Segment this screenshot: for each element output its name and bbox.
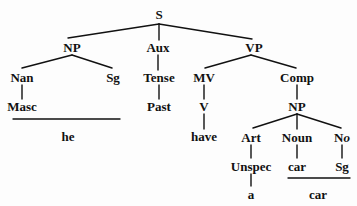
syntax-tree-diagram: S NP Aux VP Nan Sg Tense MV Comp Masc Pa… (0, 0, 357, 206)
node-masc: Masc (7, 100, 37, 113)
word-he: he (62, 130, 75, 143)
node-unspec: Unspec (231, 160, 271, 173)
node-mv: MV (193, 71, 215, 84)
node-tense: Tense (143, 71, 174, 84)
node-np-comp: NP (288, 100, 305, 113)
node-art: Art (241, 131, 261, 144)
node-no-main: N (334, 130, 343, 145)
edge-s-np (68, 24, 159, 38)
word-car: car (309, 188, 327, 201)
node-car: car (288, 160, 306, 173)
node-vp: VP (245, 41, 262, 54)
edge-np-sg (72, 55, 112, 68)
node-noun: Noun (282, 131, 312, 144)
edge-np-nan (22, 55, 72, 68)
word-have: have (191, 130, 217, 143)
node-no: No (334, 131, 350, 144)
node-past: Past (147, 100, 171, 113)
node-nan: Nan (10, 71, 33, 84)
node-np: NP (63, 41, 80, 54)
node-sg: Sg (106, 71, 120, 84)
node-aux: Aux (146, 41, 169, 54)
edge-vp-mv (205, 55, 251, 68)
node-comp: Comp (280, 71, 314, 84)
node-v: V (199, 100, 208, 113)
edge-np2-no (297, 114, 341, 128)
node-sg-noun: Sg (335, 160, 349, 173)
node-no-sub: o (343, 130, 350, 145)
word-a: a (248, 188, 255, 201)
node-s: S (155, 8, 162, 21)
edge-np2-art (253, 114, 297, 128)
edge-vp-comp (251, 55, 296, 68)
edge-s-vp (159, 24, 252, 39)
